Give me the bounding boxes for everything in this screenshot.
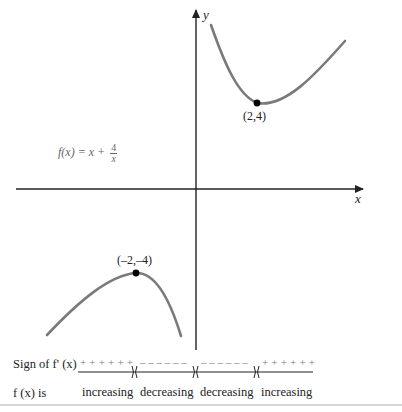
curve-left-branch (47, 273, 181, 336)
sign-segment-3: – – – – – – (201, 356, 248, 368)
behavior-3: decreasing (200, 385, 253, 400)
curve-right-branch (211, 25, 345, 104)
local-min-label: (2,4) (243, 109, 266, 124)
function-formula: f(x) = x + 4 x (58, 143, 117, 164)
y-axis-label: y (203, 7, 209, 23)
function-graph (0, 0, 402, 412)
local-max-point (133, 270, 140, 277)
behavior-2: decreasing (140, 385, 193, 400)
sign-segment-2: – – – – – – (140, 356, 187, 368)
x-axis-label: x (355, 191, 361, 207)
sign-row-label: Sign of f' (x) (13, 357, 77, 372)
formula-denominator: x (110, 154, 117, 164)
local-min-point (254, 100, 261, 107)
local-max-label: (–2,–4) (117, 253, 152, 268)
sign-segment-4: + + + + + + (262, 356, 315, 368)
formula-fraction: 4 x (110, 143, 117, 164)
behavior-1: increasing (82, 385, 133, 400)
behavior-4: increasing (261, 385, 312, 400)
formula-lhs: f(x) = x + (58, 145, 108, 159)
sign-segment-1: + + + + + + (80, 356, 133, 368)
behavior-row-label: f (x) is (13, 386, 46, 401)
